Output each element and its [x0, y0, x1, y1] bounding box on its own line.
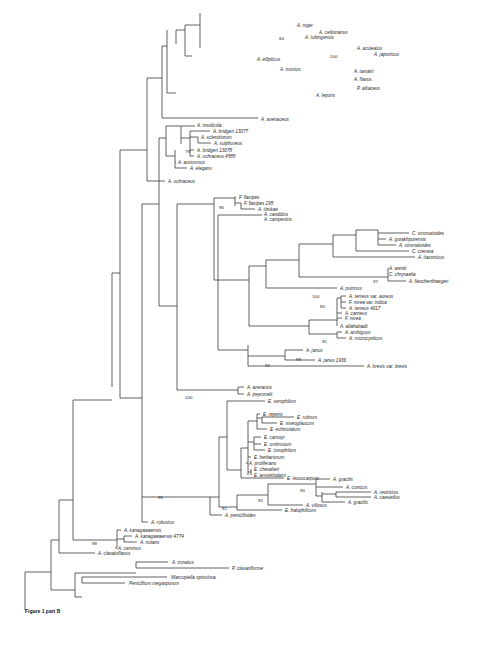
taxon-label: A. proliferans [249, 461, 276, 466]
taxon-label: A. conicus [346, 485, 367, 490]
taxon-label: A. ambiguus [345, 330, 371, 335]
bootstrap-value: 95 [158, 495, 163, 500]
taxon-label: A. peyronelii [247, 392, 272, 397]
taxon-label: F. nivea var. indica [349, 300, 387, 305]
taxon-label: A. microcysticus [349, 336, 382, 341]
bootstrap-value: 81 [222, 506, 227, 511]
taxon-label: E. halophilicum [285, 508, 316, 513]
taxon-label: A. caesiellus [374, 495, 400, 500]
taxon-label: A. wentii [389, 266, 406, 271]
taxon-label: P. clavariiforme [232, 566, 263, 571]
taxon-label: A. auricomus [178, 160, 205, 165]
taxon-label: A. nomius [280, 67, 300, 72]
taxon-label: A. allahabadii [340, 324, 368, 329]
taxon-label: C. stromatoides [412, 231, 444, 236]
taxon-label: A. stromatoides [399, 243, 431, 248]
bootstrap-value: 80 [320, 304, 325, 309]
taxon-label: E. rubrum [297, 415, 317, 420]
taxon-label: A. sulphureus [214, 141, 242, 146]
bootstrap-value: 100 [185, 395, 192, 400]
taxon-label: E. amstelodami [254, 473, 286, 478]
taxon-label: A. arenarius [247, 385, 272, 390]
taxon-label: A. campestris [264, 217, 292, 222]
bootstrap-value: 90 [300, 488, 305, 493]
taxon-label: F. flavipes 295 [244, 201, 273, 206]
bootstrap-value: 92 [258, 498, 263, 503]
taxon-label: E. tonophilum [268, 448, 296, 453]
taxon-label: A. penicilloides [225, 513, 256, 518]
taxon-label: A. insulicola [197, 123, 222, 128]
taxon-label: C. cremea [412, 249, 433, 254]
taxon-label: A. bridgeri 13078 [197, 148, 232, 153]
taxon-label: A. elegans [190, 166, 212, 171]
taxon-label: A. bridgeri 13077 [213, 129, 248, 134]
taxon-label: Penicillium megasporum [129, 581, 179, 586]
taxon-label: A. tamarii [354, 69, 373, 74]
taxon-label: Warcupiella spinulosa [171, 575, 216, 580]
taxon-label: A. avenaceus [261, 117, 289, 122]
bootstrap-value: 100 [312, 294, 319, 299]
taxon-label: A. puinnus [340, 286, 362, 291]
taxon-label: A. niger [297, 23, 313, 28]
taxon-label: A. gracilis [348, 500, 368, 505]
taxon-label: A. clavatoflavus [98, 551, 130, 556]
taxon-label: E. xerophilum [268, 399, 296, 404]
bootstrap-value: 99 [296, 357, 301, 362]
bootstrap-value: 100 [330, 54, 337, 59]
bootstrap-value: 97 [373, 279, 378, 284]
taxon-label: A. ellipticus [257, 57, 280, 62]
taxon-label: A. nutans [140, 540, 159, 545]
taxon-label: F. nivea [345, 316, 361, 321]
taxon-label: E. echinulatum [270, 427, 300, 432]
taxon-label: A. kanagawaensis [124, 528, 161, 533]
taxon-label: E. niveoglaucum [280, 421, 314, 426]
bootstrap-value: 98 [92, 541, 97, 546]
taxon-label: E. umbrosum [264, 442, 291, 447]
taxon-label: C. chrysaelia [389, 272, 416, 277]
taxon-label: A. gorakhpurensis [389, 237, 426, 242]
taxon-label: F. flavipes [239, 195, 259, 200]
taxon-label: A. zonatus [172, 560, 194, 565]
taxon-label: A. fieschenthaegeri [409, 279, 448, 284]
bootstrap-value: 91 [322, 339, 327, 344]
figure-caption: Figure 1 part B [25, 608, 60, 614]
tree-branches [0, 0, 477, 650]
taxon-label: A. janus [306, 348, 323, 353]
taxon-label: A. japonicus [374, 52, 399, 57]
taxon-label: A. kanagawaensis 4774 [135, 534, 184, 539]
bootstrap-value: 92 [265, 363, 270, 368]
bootstrap-value: 96 [219, 205, 224, 210]
taxon-label: A. ochraceus [168, 179, 195, 184]
bootstrap-value: 79 [185, 149, 190, 154]
taxon-label: E. repens [263, 412, 283, 417]
taxon-label: A. itaconicus [418, 255, 444, 260]
bootstrap-value: 84 [279, 36, 284, 41]
taxon-label: A. sclerotiorum [201, 135, 232, 140]
taxon-label: A. tubingensis [305, 35, 334, 40]
taxon-label: A. robustus [151, 520, 174, 525]
taxon-label: A. gracilis [333, 477, 353, 482]
taxon-label: E. chevalieri [254, 467, 279, 472]
taxon-label: A. janus 1936 [318, 358, 346, 363]
taxon-label: A. leporis [316, 93, 335, 98]
taxon-label: P. alliaceus [357, 86, 380, 91]
taxon-label: E. leucocarpum [287, 476, 319, 481]
taxon-label: E. carnoyi [264, 435, 284, 440]
taxon-label: A. terreus var. aureus [349, 294, 393, 299]
taxon-label: A. ochraceus 4585 [197, 154, 235, 159]
taxon-label: A. flavus [354, 77, 372, 82]
taxon-label: A. brevis var. brevis [367, 364, 407, 369]
taxon-label: A. aculeatus [357, 46, 382, 51]
taxon-label: E. herbariorum [254, 455, 284, 460]
